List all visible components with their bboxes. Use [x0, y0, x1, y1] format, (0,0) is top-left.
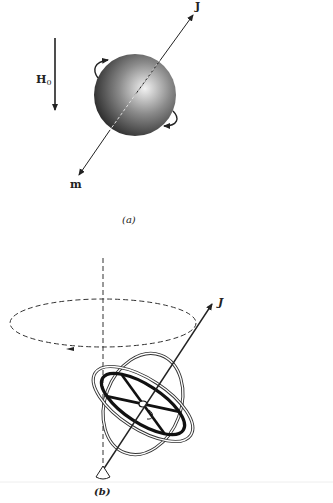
magnetic-moment-label: m [70, 178, 82, 191]
panel-b: J (b) [0, 258, 333, 497]
panel-a: H0 J m (a) [36, 0, 200, 225]
precession-arrow [66, 347, 74, 351]
figure: H0 J m (a) [0, 0, 333, 503]
caption-b: (b) [94, 486, 111, 497]
caption-a: (a) [122, 214, 136, 225]
angular-momentum-label: J [194, 0, 200, 13]
gyroscope [82, 342, 205, 466]
pivot-support [96, 466, 110, 479]
angular-momentum-label-b: J [216, 296, 224, 309]
magnetic-moment-arrow [79, 130, 110, 175]
field-label: H0 [36, 73, 52, 87]
